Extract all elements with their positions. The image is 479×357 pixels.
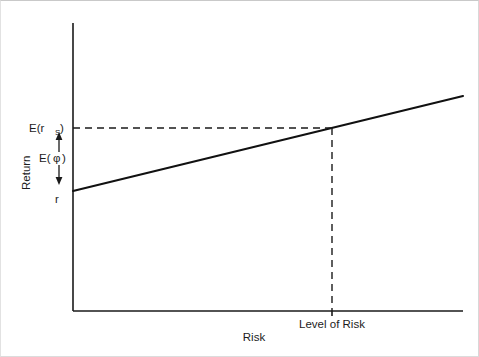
- y-axis-title: Return: [20, 155, 32, 190]
- y-tick-label-expected-return-prefix: E(r: [29, 122, 45, 134]
- security-market-line: [73, 96, 463, 191]
- y-tick-label-expected-return-suffix: ): [60, 122, 64, 134]
- x-tick-label-level-of-risk: Level of Risk: [299, 318, 365, 330]
- risk-premium-label-suffix: ): [62, 152, 66, 164]
- risk-return-chart: E(r S ) E( φ ) r Return Level of Risk Ri…: [1, 1, 479, 357]
- risk-premium-arrow-down-head: [56, 177, 63, 185]
- risk-premium-label-prefix: E(: [39, 152, 51, 164]
- x-axis-title: Risk: [243, 331, 266, 343]
- risk-premium-label-phi-symbol: φ: [53, 152, 60, 164]
- figure-canvas: E(r S ) E( φ ) r Return Level of Risk Ri…: [0, 0, 479, 357]
- y-tick-label-risk-free-rate: r: [55, 193, 59, 205]
